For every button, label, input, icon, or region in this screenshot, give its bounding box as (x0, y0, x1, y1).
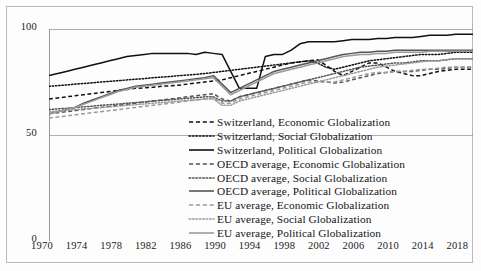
legend-line-swatch-icon (188, 158, 215, 170)
legend-line-swatch-icon (188, 199, 215, 211)
legend-item[interactable]: Switzerland, Economic Globalization (188, 115, 473, 129)
legend-item-label: OECD average, Social Globalization (215, 172, 387, 184)
legend-item-label: OECD average, Economic Globalization (215, 158, 405, 170)
x-axis-tick-label: 2018 (435, 240, 479, 251)
legend-item[interactable]: EU average, Economic Globalization (188, 198, 473, 212)
legend-item[interactable]: Switzerland, Political Globalization (188, 143, 473, 157)
legend-item-label: EU average, Economic Globalization (215, 199, 389, 211)
legend-item-label: Switzerland, Political Globalization (215, 144, 382, 156)
legend-item[interactable]: OECD average, Economic Globalization (188, 157, 473, 171)
legend-line-swatch-icon (188, 172, 215, 184)
legend-line-swatch-icon (188, 213, 215, 225)
legend-line-swatch-icon (188, 144, 215, 156)
legend-item[interactable]: EU average, Social Globalization (188, 212, 473, 226)
legend-line-swatch-icon (188, 130, 215, 142)
chart-legend: Switzerland, Economic GlobalizationSwitz… (188, 115, 473, 240)
legend-item-label: Switzerland, Social Globalization (215, 130, 372, 142)
legend-item[interactable]: OECD average, Political Globalization (188, 184, 473, 198)
legend-line-swatch-icon (188, 116, 215, 128)
legend-item[interactable]: Switzerland, Social Globalization (188, 129, 473, 143)
legend-line-swatch-icon (188, 185, 215, 197)
legend-item-label: EU average, Social Globalization (215, 213, 371, 225)
legend-item[interactable]: EU average, Political Globalization (188, 226, 473, 240)
legend-item[interactable]: OECD average, Social Globalization (188, 171, 473, 185)
legend-item-label: OECD average, Political Globalization (215, 185, 397, 197)
series-line-1 (49, 52, 473, 86)
chart-screenshot: 100500 197019741978198219861990199419982… (0, 0, 481, 271)
y-axis-tick-label: 50 (7, 127, 37, 138)
y-axis-tick-label: 100 (7, 21, 37, 32)
legend-item-label: EU average, Political Globalization (215, 227, 381, 239)
legend-line-swatch-icon (188, 227, 215, 239)
chart-frame: 100500 197019741978198219861990199419982… (6, 6, 473, 263)
legend-item-label: Switzerland, Economic Globalization (215, 116, 390, 128)
